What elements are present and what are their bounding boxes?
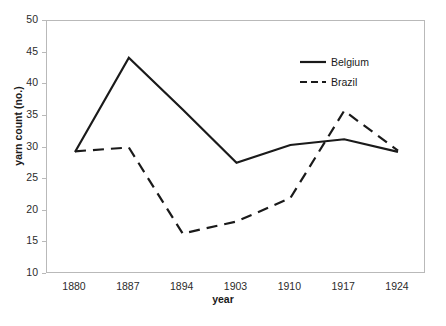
x-axis-tick-label: 1917 bbox=[331, 281, 354, 292]
legend-item-label: Brazil bbox=[331, 76, 357, 88]
y-axis-tick-label: 50 bbox=[26, 14, 38, 24]
x-axis-tick-label: 1910 bbox=[278, 281, 301, 292]
legend-line-swatch-icon bbox=[300, 76, 326, 88]
x-axis-tick-label: 1887 bbox=[116, 281, 139, 292]
y-axis-tick-label: 30 bbox=[26, 141, 38, 151]
y-axis-tick-label: 25 bbox=[26, 172, 38, 182]
series-line-brazil bbox=[75, 111, 398, 234]
x-axis: 1880188718941903191019171924 bbox=[46, 273, 425, 295]
y-axis-tick-label: 35 bbox=[26, 109, 38, 119]
x-axis-tick-label: 1894 bbox=[170, 281, 193, 292]
x-axis-title: year bbox=[0, 293, 446, 305]
y-axis-tick-label: 10 bbox=[26, 267, 38, 277]
series-lines bbox=[47, 21, 426, 274]
legend-line-swatch-icon bbox=[300, 56, 326, 68]
y-axis-tick-label: 40 bbox=[26, 77, 38, 87]
y-axis-tick-label: 20 bbox=[26, 204, 38, 214]
y-axis-tick-label: 45 bbox=[26, 46, 38, 56]
x-axis-tick-label: 1924 bbox=[385, 281, 408, 292]
x-axis-tick-label: 1903 bbox=[224, 281, 247, 292]
x-axis-tick-label: 1880 bbox=[62, 281, 85, 292]
legend: BelgiumBrazil bbox=[300, 52, 369, 92]
line-chart: 101520253035404550 yarn count (no.) 1880… bbox=[0, 0, 446, 326]
y-axis-tick-label: 15 bbox=[26, 235, 38, 245]
y-axis-title: yarn count (no.) bbox=[12, 61, 24, 191]
legend-item: Brazil bbox=[300, 72, 369, 92]
legend-item: Belgium bbox=[300, 52, 369, 72]
legend-item-label: Belgium bbox=[331, 56, 369, 68]
